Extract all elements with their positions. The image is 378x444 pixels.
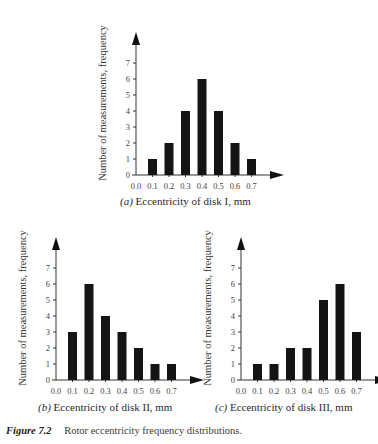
bar-chart-b: Number of measurements, frequency0123456… — [0, 205, 190, 385]
figure-caption-text: Rotor eccentricity frequency distributio… — [64, 425, 242, 436]
y-tick-label: 5 — [126, 90, 130, 100]
x-tick-label: 0.3 — [285, 386, 296, 396]
bar-chart-c: Number of measurements, frequency0123456… — [185, 205, 378, 385]
xlabel-c: Eccentricity of disk III, mm — [230, 401, 353, 413]
x-tick-label: 0.0 — [236, 386, 247, 396]
chart-panel-a: Number of measurements, frequency0123456… — [80, 0, 300, 180]
y-tick-label: 3 — [231, 327, 235, 337]
bar — [303, 348, 312, 380]
y-axis-arrow-icon — [237, 237, 245, 250]
y-tick-label: 6 — [46, 279, 50, 289]
y-axis-label: Number of measurements, frequency — [97, 24, 108, 180]
bar — [151, 364, 160, 380]
panel-label-c: (c) — [215, 401, 227, 413]
bar — [181, 111, 190, 175]
y-tick-label: 4 — [126, 106, 131, 116]
x-tick-label: 0.2 — [164, 181, 175, 191]
x-axis-arrow-icon — [270, 171, 284, 179]
y-tick-label: 2 — [46, 343, 50, 353]
y-axis-label: Number of measurements, frequency — [202, 229, 213, 385]
y-tick-label: 1 — [126, 154, 130, 164]
figure-number: Figure 7.2 — [6, 425, 52, 436]
x-tick-label: 0.3 — [180, 181, 191, 191]
y-tick-label: 0 — [126, 170, 130, 180]
x-tick-label: 0.0 — [51, 386, 62, 396]
x-tick-label: 0.2 — [84, 386, 95, 396]
x-tick-label: 0.6 — [335, 386, 346, 396]
panel-label-b: (b) — [38, 401, 51, 413]
y-axis-arrow-icon — [132, 32, 140, 45]
x-tick-label: 0.4 — [302, 386, 313, 396]
bar — [68, 332, 77, 380]
y-tick-label: 3 — [46, 327, 50, 337]
bar — [247, 159, 256, 175]
y-tick-label: 5 — [231, 295, 235, 305]
bar — [270, 364, 279, 380]
y-tick-label: 2 — [126, 138, 130, 148]
bar — [253, 364, 262, 380]
x-tick-label: 0.5 — [213, 181, 224, 191]
y-tick-label: 6 — [126, 74, 130, 84]
x-tick-label: 0.1 — [67, 386, 78, 396]
chart-panel-c: Number of measurements, frequency0123456… — [185, 205, 378, 385]
x-tick-label: 0.3 — [100, 386, 111, 396]
figure-caption: Figure 7.2 Rotor eccentricity frequency … — [6, 425, 242, 436]
x-tick-label: 0.7 — [246, 181, 257, 191]
x-tick-label: 0.2 — [269, 386, 280, 396]
chart-panel-b: Number of measurements, frequency0123456… — [0, 205, 190, 385]
x-tick-label: 0.0 — [131, 181, 142, 191]
bar — [148, 159, 157, 175]
bar — [231, 143, 240, 175]
x-tick-label: 0.1 — [147, 181, 158, 191]
caption-c: (c) Eccentricity of disk III, mm — [215, 401, 352, 413]
bar — [165, 143, 174, 175]
y-tick-label: 4 — [231, 311, 236, 321]
bar-chart-a: Number of measurements, frequency0123456… — [80, 0, 300, 180]
y-tick-label: 6 — [231, 279, 235, 289]
bar — [286, 348, 295, 380]
y-tick-label: 7 — [231, 263, 235, 273]
bar — [85, 284, 94, 380]
x-tick-label: 0.4 — [197, 181, 208, 191]
xlabel-b: Eccentricity of disk II, mm — [54, 401, 173, 413]
x-tick-label: 0.6 — [150, 386, 161, 396]
y-axis-label: Number of measurements, frequency — [17, 229, 28, 385]
bar — [336, 284, 345, 380]
bar — [214, 111, 223, 175]
bar — [352, 332, 361, 380]
bar — [134, 348, 143, 380]
bar — [101, 316, 110, 380]
y-tick-label: 0 — [231, 375, 235, 385]
y-tick-label: 2 — [231, 343, 235, 353]
y-axis-arrow-icon — [52, 237, 60, 250]
x-tick-label: 0.5 — [318, 386, 329, 396]
x-tick-label: 0.7 — [166, 386, 177, 396]
bar — [319, 300, 328, 380]
y-tick-label: 1 — [46, 359, 50, 369]
caption-b: (b) Eccentricity of disk II, mm — [38, 401, 172, 413]
x-tick-label: 0.4 — [117, 386, 128, 396]
y-tick-label: 5 — [46, 295, 50, 305]
y-tick-label: 7 — [46, 263, 50, 273]
y-tick-label: 1 — [231, 359, 235, 369]
y-tick-label: 3 — [126, 122, 130, 132]
y-tick-label: 4 — [46, 311, 51, 321]
bar — [167, 364, 176, 380]
x-tick-label: 0.1 — [252, 386, 263, 396]
x-tick-label: 0.7 — [351, 386, 362, 396]
x-tick-label: 0.6 — [230, 181, 241, 191]
bar — [118, 332, 127, 380]
y-tick-label: 0 — [46, 375, 50, 385]
x-tick-label: 0.5 — [133, 386, 144, 396]
y-tick-label: 7 — [126, 58, 130, 68]
bar — [198, 79, 207, 175]
